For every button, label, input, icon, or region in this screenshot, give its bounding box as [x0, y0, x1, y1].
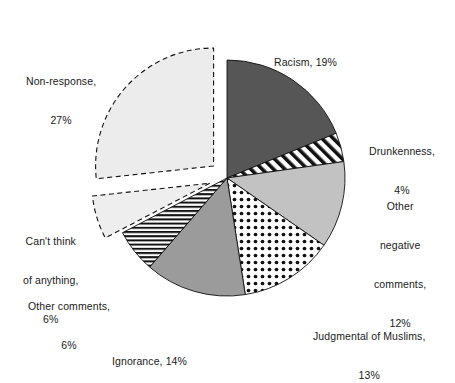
slice-label-non-response: Non-response, 27% — [26, 49, 96, 153]
slice-label-other-negative-comments-line3: comments, — [374, 278, 426, 291]
slice-label-judgmental-of-muslims-line2: 13% — [313, 369, 426, 382]
slice-label-racism-line1: Racism, 19% — [274, 56, 337, 69]
slice-label-ignorance-line1: Ignorance, 14% — [112, 355, 187, 368]
slice-label-cant-think-of-anything: Can't think of anything, 6% — [23, 209, 79, 352]
slice-label-ignorance: Ignorance, 14% — [112, 329, 187, 383]
slice-label-cant-think-of-anything-line3: 6% — [23, 313, 79, 326]
slice-label-racism: Racism, 19% — [274, 30, 337, 95]
slice-label-other-negative-comments-line2: negative — [374, 239, 426, 252]
slice-label-drunkenness-line1: Drunkenness, — [369, 145, 435, 158]
slice-label-non-response-line1: Non-response, — [26, 75, 96, 88]
slice-label-cant-think-of-anything-line2: of anything, — [23, 274, 79, 287]
slice-label-other-negative-comments-line1: Other — [374, 200, 426, 213]
pie-slice[interactable] — [96, 48, 214, 179]
slice-label-judgmental-of-muslims-line1: Judgmental of Muslims, — [313, 330, 426, 343]
slice-label-non-response-line2: 27% — [26, 114, 96, 127]
slice-label-judgmental-of-muslims: Judgmental of Muslims, 13% — [313, 304, 426, 383]
slice-label-cant-think-of-anything-line1: Can't think — [23, 235, 79, 248]
